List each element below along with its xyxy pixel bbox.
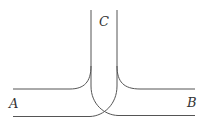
label-b: B [187,96,197,109]
upper-left-wall [13,10,91,89]
upper-right-wall [117,10,195,89]
crossing-wall-left [91,66,195,116]
label-a: A [9,97,18,110]
label-c: C [99,15,109,28]
